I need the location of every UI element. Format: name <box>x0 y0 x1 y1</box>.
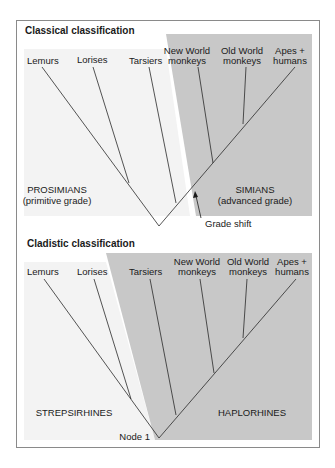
taxon-label-lemurs: Lemurs <box>27 55 59 66</box>
taxon-label-old-world-2: monkeys <box>223 55 261 66</box>
taxon-label-lorises: Lorises <box>77 54 108 65</box>
classical-panel: Classical classification Lemurs Lorises … <box>23 25 312 229</box>
group-label-simians-sub: (advanced grade) <box>218 195 292 206</box>
group-label-strepsirhines: STREPSIRHINES <box>36 407 113 418</box>
taxon-label-lemurs: Lemurs <box>27 266 59 277</box>
taxon-label-tarsiers: Tarsiers <box>129 266 163 277</box>
panel-title: Classical classification <box>25 25 135 36</box>
node-1-label: Node 1 <box>119 431 150 442</box>
taxon-label-apes-2: humans <box>273 55 307 66</box>
group-label-prosimians: PROSIMIANS <box>27 184 87 195</box>
taxon-label-lorises: Lorises <box>77 266 108 277</box>
taxon-label-new-world-2: monkeys <box>178 266 216 277</box>
taxon-label-old-world-2: monkeys <box>229 266 267 277</box>
grade-shift-label: Grade shift <box>205 218 252 229</box>
panel-title: Cladistic classification <box>27 238 135 249</box>
phylogeny-diagram: Classical classification Lemurs Lorises … <box>0 0 335 468</box>
taxon-label-new-world-2: monkeys <box>168 55 206 66</box>
taxon-label-apes-2: humans <box>275 266 309 277</box>
group-label-prosimians-sub: (primitive grade) <box>23 195 92 206</box>
taxon-label-tarsiers: Tarsiers <box>129 55 163 66</box>
group-label-haplorhines: HAPLORHINES <box>218 407 286 418</box>
group-label-simians: SIMIANS <box>235 184 274 195</box>
cladistic-panel: Cladistic classification Lemurs Lorises … <box>24 238 312 442</box>
